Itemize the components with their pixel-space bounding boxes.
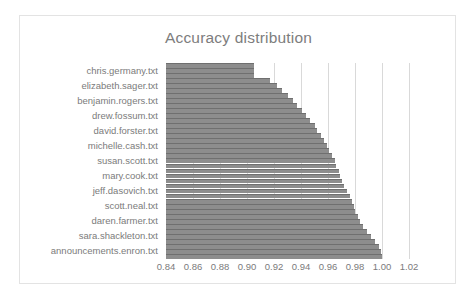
category-label: jeff.dasovich.txt bbox=[93, 186, 158, 196]
x-tick-label: 1.00 bbox=[373, 261, 392, 272]
value-axis-labels: 0.840.860.880.900.920.940.960.981.001.02 bbox=[166, 261, 409, 277]
chart-title: Accuracy distribution bbox=[20, 29, 457, 47]
category-label: daren.farmer.txt bbox=[91, 216, 158, 226]
category-label: mary.cook.txt bbox=[102, 171, 158, 181]
category-label: michelle.cash.txt bbox=[88, 141, 158, 151]
gridline bbox=[409, 63, 410, 259]
x-tick-label: 0.90 bbox=[238, 261, 257, 272]
x-tick-label: 0.86 bbox=[184, 261, 203, 272]
bars-layer bbox=[166, 63, 409, 259]
chart-frame: Accuracy distribution chris.germany.txte… bbox=[19, 15, 456, 284]
category-label: elizabeth.sager.txt bbox=[81, 81, 158, 91]
category-label: sara.shackleton.txt bbox=[79, 231, 158, 241]
x-tick-label: 0.88 bbox=[211, 261, 230, 272]
x-tick-label: 1.02 bbox=[400, 261, 419, 272]
category-label: david.forster.txt bbox=[94, 126, 158, 136]
bar[interactable] bbox=[166, 254, 382, 259]
category-label: benjamin.rogers.txt bbox=[77, 96, 158, 106]
category-label: drew.fossum.txt bbox=[92, 111, 158, 121]
category-label: chris.germany.txt bbox=[86, 66, 158, 76]
x-tick-label: 0.94 bbox=[292, 261, 311, 272]
category-label: susan.scott.txt bbox=[97, 156, 158, 166]
category-label: scott.neal.txt bbox=[105, 201, 158, 211]
x-tick-label: 0.92 bbox=[265, 261, 284, 272]
x-tick-label: 0.98 bbox=[346, 261, 365, 272]
category-label: announcements.enron.txt bbox=[51, 246, 158, 256]
category-axis-labels: chris.germany.txtelizabeth.sager.txtbenj… bbox=[20, 63, 162, 259]
plot-area bbox=[166, 63, 409, 259]
x-tick-label: 0.84 bbox=[157, 261, 176, 272]
bar-fill bbox=[166, 254, 382, 259]
x-tick-label: 0.96 bbox=[319, 261, 338, 272]
